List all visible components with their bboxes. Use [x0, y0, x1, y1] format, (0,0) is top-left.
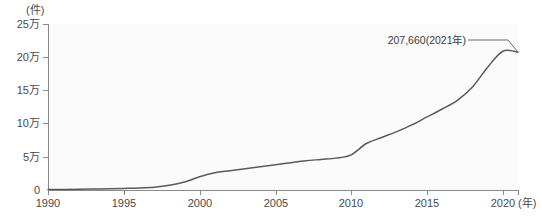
- x-tick-label-2000: 2000: [188, 197, 212, 209]
- y-axis-group: 25万 20万 15万 10万 5万 0: [17, 18, 49, 196]
- x-tick-label-2020: 2020: [491, 197, 515, 209]
- x-tick-label-2010: 2010: [339, 197, 363, 209]
- x-tick-label-1990: 1990: [36, 197, 60, 209]
- line-chart: (件) 25万 20万 15万 10万 5万 0 1990: [0, 0, 542, 221]
- x-axis-unit-label: (年): [518, 196, 536, 209]
- x-tick-label-2015: 2015: [415, 197, 439, 209]
- x-tick-label-1995: 1995: [112, 197, 136, 209]
- chart-container: (件) 25万 20万 15万 10万 5万 0 1990: [0, 0, 542, 221]
- annotation-label-2021: 207,660(2021年): [388, 34, 466, 46]
- y-tick-label-150000: 15万: [17, 84, 40, 96]
- y-tick-label-200000: 20万: [17, 51, 40, 63]
- x-tick-label-2005: 2005: [264, 197, 288, 209]
- y-tick-label-100000: 10万: [17, 117, 40, 129]
- x-axis-group: 1990 1995 2000 2005 2010 2015 2020 (年): [36, 190, 537, 209]
- y-tick-label-50000: 5万: [23, 151, 40, 163]
- y-axis-unit-label: (件): [26, 4, 44, 16]
- y-tick-label-250000: 25万: [17, 18, 40, 30]
- y-tick-label-0: 0: [34, 184, 40, 196]
